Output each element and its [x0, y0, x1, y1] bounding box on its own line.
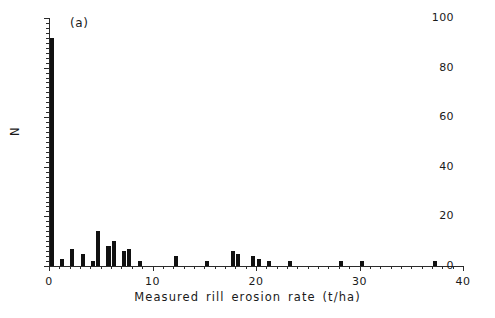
x-tick-minor — [132, 266, 133, 269]
y-tick-minor — [46, 48, 49, 49]
x-tick-minor — [184, 266, 185, 269]
y-tick-minor — [46, 226, 49, 227]
y-tick-major — [44, 117, 49, 118]
y-tick-minor — [46, 162, 49, 163]
y-tick-minor — [46, 23, 49, 24]
y-tick-major — [44, 68, 49, 69]
y-tick-minor — [46, 73, 49, 74]
histogram-bar — [138, 261, 142, 266]
x-tick-minor — [59, 266, 60, 269]
y-tick-minor — [46, 112, 49, 113]
y-tick-minor — [46, 192, 49, 193]
y-tick-label: 20 — [412, 210, 454, 221]
y-tick-minor — [46, 172, 49, 173]
histogram-bar — [50, 38, 54, 266]
x-axis-title: Measured rill erosion rate (t/ha) — [0, 290, 495, 304]
x-tick-minor — [277, 266, 278, 269]
x-tick-minor — [391, 266, 392, 269]
histogram-bar — [205, 261, 209, 266]
histogram-bar — [251, 256, 255, 266]
x-tick-major — [360, 266, 361, 271]
y-tick-label: 100 — [412, 12, 454, 23]
x-tick-label: 30 — [340, 276, 380, 287]
histogram-bar — [91, 261, 95, 266]
histogram-bar — [81, 254, 85, 266]
y-tick-minor — [46, 127, 49, 128]
x-tick-minor — [80, 266, 81, 269]
y-tick-minor — [46, 137, 49, 138]
x-tick-minor — [380, 266, 381, 269]
y-tick-minor — [46, 82, 49, 83]
x-tick-minor — [173, 266, 174, 269]
x-tick-minor — [308, 266, 309, 269]
y-tick-minor — [46, 202, 49, 203]
y-tick-minor — [46, 206, 49, 207]
x-tick-label: 20 — [236, 276, 276, 287]
histogram-bar — [288, 261, 292, 266]
x-tick-major — [49, 266, 50, 271]
y-tick-minor — [46, 97, 49, 98]
y-tick-major — [44, 167, 49, 168]
y-tick-minor — [46, 231, 49, 232]
y-tick-minor — [46, 78, 49, 79]
y-tick-minor — [46, 142, 49, 143]
y-tick-major — [44, 18, 49, 19]
x-tick-label: 10 — [133, 276, 173, 287]
y-tick-minor — [46, 87, 49, 88]
x-tick-minor — [339, 266, 340, 269]
histogram-bar — [231, 251, 235, 266]
x-tick-minor — [287, 266, 288, 269]
histogram-bar — [236, 254, 240, 266]
y-tick-major — [44, 216, 49, 217]
x-tick-minor — [349, 266, 350, 269]
y-tick-minor — [46, 197, 49, 198]
x-tick-major — [256, 266, 257, 271]
y-tick-minor — [46, 53, 49, 54]
x-tick-minor — [142, 266, 143, 269]
x-tick-minor — [370, 266, 371, 269]
y-tick-minor — [46, 246, 49, 247]
y-tick-minor — [46, 152, 49, 153]
x-tick-minor — [235, 266, 236, 269]
x-tick-minor — [225, 266, 226, 269]
y-tick-minor — [46, 58, 49, 59]
x-tick-minor — [442, 266, 443, 269]
x-tick-label: 0 — [29, 276, 69, 287]
histogram-bar — [127, 249, 131, 266]
y-tick-minor — [46, 102, 49, 103]
y-tick-minor — [46, 251, 49, 252]
y-tick-minor — [46, 256, 49, 257]
x-tick-minor — [411, 266, 412, 269]
x-tick-major — [153, 266, 154, 271]
x-tick-minor — [453, 266, 454, 269]
x-tick-minor — [90, 266, 91, 269]
histogram-bar — [267, 261, 271, 266]
histogram-bar — [360, 261, 364, 266]
y-tick-minor — [46, 92, 49, 93]
histogram-bar — [60, 259, 64, 266]
x-tick-minor — [246, 266, 247, 269]
y-tick-minor — [46, 261, 49, 262]
x-tick-minor — [215, 266, 216, 269]
y-tick-minor — [46, 122, 49, 123]
y-tick-minor — [46, 187, 49, 188]
y-tick-label: 80 — [412, 62, 454, 73]
x-tick-minor — [318, 266, 319, 269]
histogram-bar — [339, 261, 343, 266]
y-tick-minor — [46, 38, 49, 39]
y-axis-title: N — [8, 127, 22, 136]
y-tick-minor — [46, 63, 49, 64]
x-tick-minor — [401, 266, 402, 269]
y-tick-minor — [46, 182, 49, 183]
y-tick-minor — [46, 157, 49, 158]
y-tick-minor — [46, 107, 49, 108]
x-tick-major — [463, 266, 464, 271]
y-tick-minor — [46, 221, 49, 222]
x-tick-minor — [204, 266, 205, 269]
x-tick-minor — [70, 266, 71, 269]
x-tick-label: 40 — [443, 276, 483, 287]
x-tick-minor — [266, 266, 267, 269]
y-tick-label: 40 — [412, 161, 454, 172]
x-tick-minor — [194, 266, 195, 269]
y-tick-label: 60 — [412, 111, 454, 122]
